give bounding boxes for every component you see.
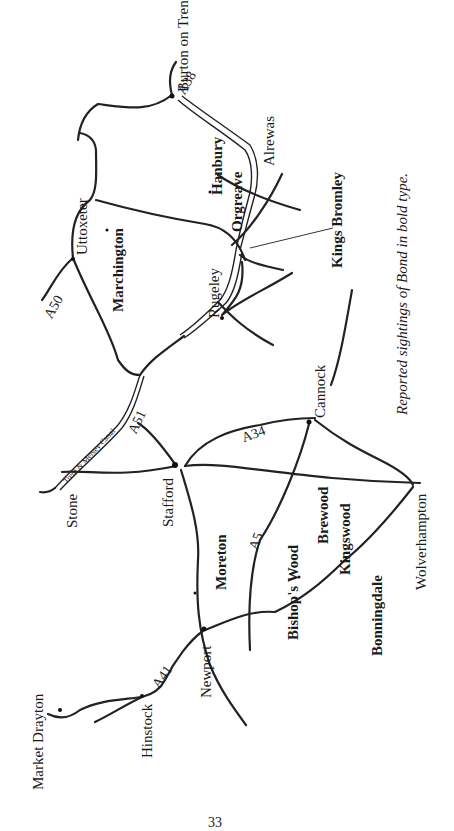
label-orgreave: Orgreave <box>230 171 245 232</box>
label-hinstock: Hinstock <box>140 704 155 758</box>
label-kings-bromley: Kings Bromley <box>330 172 345 268</box>
label-moreton: Moreton <box>214 534 229 590</box>
label-stone: Stone <box>65 494 80 528</box>
label-kingswood: Kingswood <box>338 503 353 575</box>
label-bishops-wood: Bishop's Wood <box>286 545 301 640</box>
label-uttoxeter: Uttoxeter <box>75 198 90 255</box>
page-number: 33 <box>208 815 222 831</box>
label-newport: Newport <box>199 646 214 699</box>
label-brewood: Brewood <box>316 487 331 544</box>
legend-note: Reported sightings of Bond in bold type. <box>395 173 410 415</box>
label-marchington: Marchington <box>111 228 126 312</box>
label-hanbury: Hanbury <box>210 137 225 195</box>
label-wolverhampton: Wolverhampton <box>414 494 429 590</box>
label-market-drayton: Market Drayton <box>31 694 46 790</box>
label-alrewas: Alrewas <box>262 116 277 166</box>
label-cannock: Cannock <box>313 365 328 418</box>
label-stafford: Stafford <box>161 478 176 527</box>
label-rugeley: Rugeley <box>207 268 222 318</box>
label-bonningdale: Bonningdale <box>370 575 385 656</box>
